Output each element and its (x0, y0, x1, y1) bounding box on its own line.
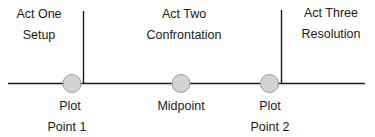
act-two-subtitle: Confrontation (136, 25, 232, 46)
act-three-label: Act Three Resolution (296, 3, 366, 45)
plot-point-1-line2: Point 1 (32, 117, 102, 137)
act-one-title: Act One (8, 4, 70, 25)
act-one-subtitle: Setup (8, 25, 70, 46)
act-three-title: Act Three (296, 3, 366, 24)
plot-point-1-label: Plot Point 1 (32, 96, 102, 137)
act-two-title: Act Two (136, 4, 232, 25)
act-two-label: Act Two Confrontation (136, 4, 232, 46)
three-act-diagram: Act One Setup Act Two Confrontation Act … (0, 0, 375, 137)
plot-point-2-line1: Plot (235, 96, 305, 117)
plot-point-2-line2: Point 2 (235, 117, 305, 137)
plot-point-1-line1: Plot (32, 96, 102, 117)
act-one-label: Act One Setup (8, 4, 70, 46)
midpoint-marker (172, 75, 190, 93)
plot-point-2-label: Plot Point 2 (235, 96, 305, 137)
plot-point-1-marker (63, 75, 81, 93)
midpoint-line1: Midpoint (146, 96, 216, 117)
plot-point-2-marker (261, 75, 279, 93)
midpoint-label: Midpoint (146, 96, 216, 117)
act-three-subtitle: Resolution (296, 24, 366, 45)
